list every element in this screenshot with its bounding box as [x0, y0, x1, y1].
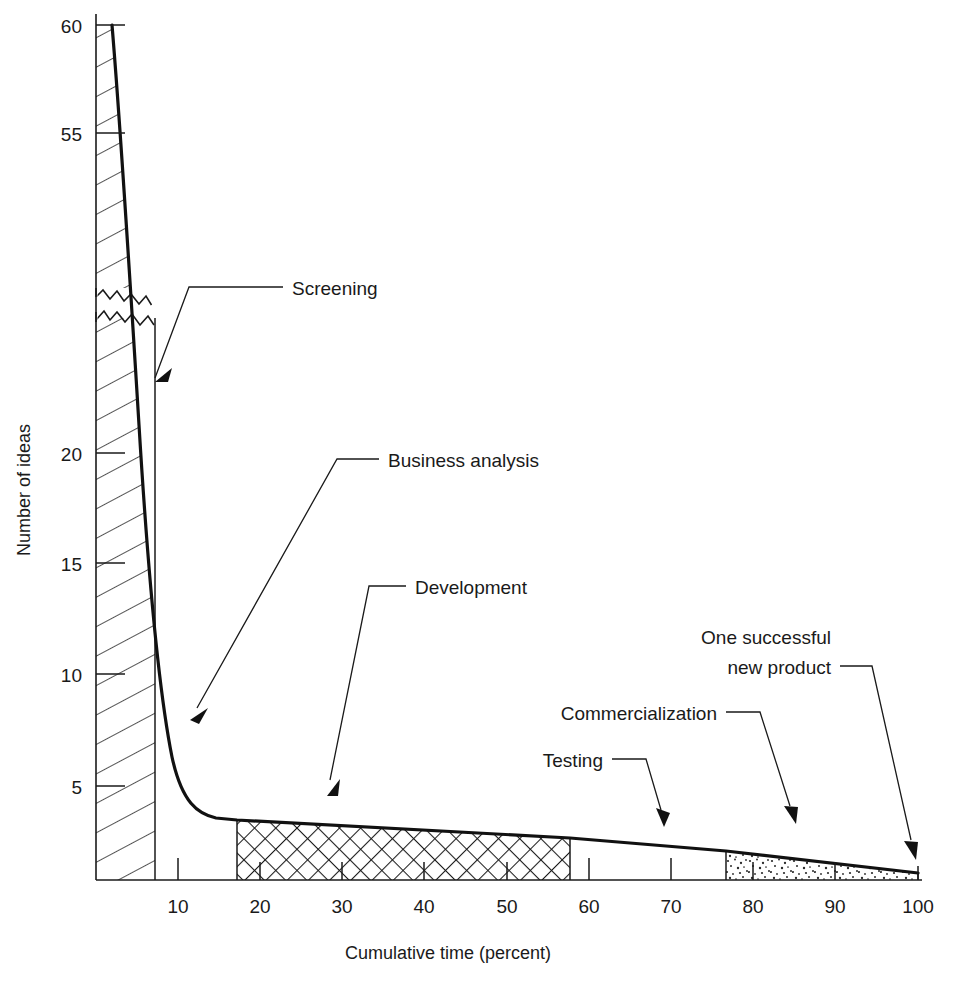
axes — [96, 14, 922, 880]
y-tick-labels: 60 55 20 15 10 5 — [61, 16, 82, 798]
y-tick-label-20: 20 — [61, 444, 82, 465]
callout-label-screening: Screening — [292, 278, 378, 299]
y-tick-label-5: 5 — [71, 777, 82, 798]
y-tick-label-60: 60 — [61, 16, 82, 37]
callout-label-business-analysis: Business analysis — [388, 450, 539, 471]
callout-one-successful-new-product: One successful new product — [701, 627, 918, 860]
y-tick-label-10: 10 — [61, 665, 82, 686]
x-tick-labels: 10 20 30 40 50 60 70 80 90 100 — [167, 896, 933, 917]
callout-screening: Screening — [155, 278, 378, 382]
callout-label-one-successful-line2: new product — [727, 657, 831, 678]
region-commercialization-fill — [726, 830, 918, 882]
x-tick-label-80: 80 — [742, 896, 763, 917]
x-tick-label-20: 20 — [249, 896, 270, 917]
callout-label-one-successful-line1: One successful — [701, 627, 831, 648]
x-tick-label-100: 100 — [902, 896, 934, 917]
mortality-curve — [112, 25, 918, 873]
product-development-mortality-curve: 60 55 20 15 10 5 10 20 30 40 50 60 70 80… — [0, 0, 954, 984]
callout-label-testing: Testing — [543, 750, 603, 771]
x-tick-label-30: 30 — [331, 896, 352, 917]
x-tick-label-90: 90 — [824, 896, 845, 917]
callout-label-development: Development — [415, 577, 528, 598]
x-tick-label-70: 70 — [660, 896, 681, 917]
x-tick-label-10: 10 — [167, 896, 188, 917]
x-axis-title: Cumulative time (percent) — [345, 943, 551, 963]
region-development-fill — [237, 800, 570, 882]
region-dividers — [155, 318, 918, 880]
callout-testing: Testing — [543, 750, 670, 827]
callout-label-commercialization: Commercialization — [561, 703, 717, 724]
chart-container: 60 55 20 15 10 5 10 20 30 40 50 60 70 80… — [0, 0, 954, 984]
x-tick-label-40: 40 — [413, 896, 434, 917]
x-tick-label-60: 60 — [578, 896, 599, 917]
x-tick-label-50: 50 — [496, 896, 517, 917]
y-tick-label-55: 55 — [61, 124, 82, 145]
y-axis-title: Number of ideas — [14, 424, 34, 556]
y-tick-label-15: 15 — [61, 554, 82, 575]
callout-development: Development — [327, 577, 528, 796]
region-screening-fill — [96, 20, 155, 882]
